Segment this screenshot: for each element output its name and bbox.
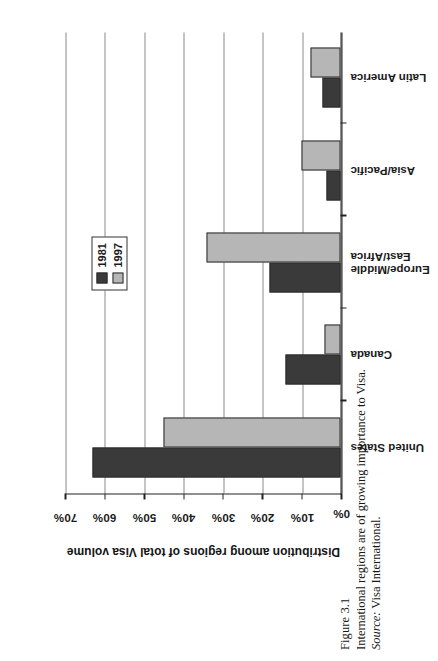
bar-1981 xyxy=(285,355,340,385)
y-axis-tick-label: 10% xyxy=(290,511,314,523)
x-axis-tick xyxy=(341,123,347,124)
y-axis-tick xyxy=(183,494,184,500)
category-label: Latin America xyxy=(351,71,427,84)
legend-swatch-1997 xyxy=(112,273,123,284)
figure-source: Source: Visa International. xyxy=(369,350,385,650)
legend-item-1981: 1981 xyxy=(96,243,108,283)
category-label-line: Latin America xyxy=(351,71,427,84)
bar-1997 xyxy=(206,233,340,263)
chart-legend: 19811997 xyxy=(92,236,128,290)
y-axis-tick-label: 60% xyxy=(93,511,117,523)
bar-group: Asia/Pacific xyxy=(65,124,341,216)
bar-group: United States xyxy=(65,401,341,493)
category-label-line: Asia/Pacific xyxy=(351,164,416,177)
bar-group: Canada xyxy=(65,309,341,401)
y-axis-tick xyxy=(104,494,105,500)
y-axis-tick-label: 20% xyxy=(251,511,275,523)
y-axis-tick xyxy=(262,494,263,500)
legend-swatch-1981 xyxy=(96,273,107,284)
category-label-line: Europe/Middle xyxy=(351,263,430,276)
y-axis-tick-label: 70% xyxy=(54,511,78,523)
y-axis-tick-label: 30% xyxy=(211,511,235,523)
bar-1981 xyxy=(327,170,341,200)
legend-item-1997: 1997 xyxy=(112,243,124,283)
y-axis-title-text: Distribution among regions of total Visa… xyxy=(67,544,340,558)
figure-number: Figure 3.1 xyxy=(338,350,354,650)
bar-1981 xyxy=(323,78,341,108)
bar-1997 xyxy=(311,48,341,78)
x-axis-tick xyxy=(341,307,347,308)
category-label-line: East/Africa xyxy=(351,250,430,263)
bar-1997 xyxy=(163,417,340,447)
legend-label-1997: 1997 xyxy=(112,243,124,267)
bar-1981 xyxy=(270,263,341,293)
figure-source-value: Visa International. xyxy=(369,516,383,611)
category-label: Europe/MiddleEast/Africa xyxy=(351,250,430,276)
y-axis-tick-label: 50% xyxy=(133,511,157,523)
figure-chart-stage: Distribution among regions of total Visa… xyxy=(52,1,387,591)
y-axis-tick xyxy=(301,494,302,500)
y-axis-tick-label: 40% xyxy=(172,511,196,523)
y-axis-tick xyxy=(223,494,224,500)
figure-caption-text: International regions are of growing imp… xyxy=(354,350,370,650)
bar-group: Latin America xyxy=(65,32,341,124)
figure-source-label: Source: xyxy=(369,612,383,650)
category-label: Asia/Pacific xyxy=(351,164,416,177)
x-axis-tick xyxy=(341,215,347,216)
bar-1981 xyxy=(92,447,340,477)
legend-label-1981: 1981 xyxy=(96,243,108,267)
bar-1997 xyxy=(301,140,340,170)
y-axis-tick xyxy=(144,494,145,500)
y-axis-tick xyxy=(65,494,66,500)
y-axis-title: Distribution among regions of total Visa… xyxy=(66,543,342,561)
